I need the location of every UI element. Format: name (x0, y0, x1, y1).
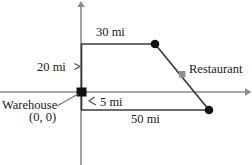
label-30mi: 30 mi (96, 26, 125, 39)
label-origin-coords: (0, 0) (29, 111, 56, 124)
warehouse-marker-icon (77, 88, 87, 97)
twenty-mi-pointer-icon (75, 64, 81, 70)
vertical-axis-arrow-icon (77, 1, 85, 7)
node-markers-group (77, 40, 214, 115)
label-restaurant: Restaurant (189, 63, 242, 76)
node-bottom-right-marker-icon (205, 106, 214, 115)
warehouse-leader-line (57, 94, 78, 106)
label-20mi: 20 mi (37, 61, 66, 74)
restaurant-marker-icon (179, 71, 186, 78)
route-diagram-svg (0, 0, 252, 165)
horizontal-axis-arrow-icon (245, 88, 252, 96)
axes-group (0, 1, 252, 165)
five-mi-pointer-icon (89, 97, 96, 105)
diagram-canvas: 30 mi 20 mi 5 mi 50 mi Restaurant Wareho… (0, 0, 252, 165)
label-50mi: 50 mi (131, 113, 160, 126)
node-top-right-marker-icon (151, 40, 160, 49)
label-5mi: 5 mi (100, 96, 123, 109)
